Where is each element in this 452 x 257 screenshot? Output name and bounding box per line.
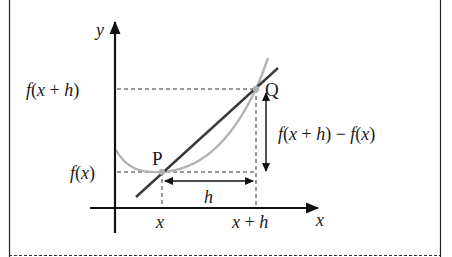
x-axis-label: x [315, 210, 324, 230]
point-p-marker [159, 169, 165, 175]
frame [9, 0, 441, 257]
function-curve [116, 58, 268, 172]
point-p-label: P [152, 148, 163, 169]
secant-diagram: y x f(x + h) f(x) x x + h h f(x + h) − f… [0, 0, 452, 257]
fx-tick-label: f(x) [70, 163, 95, 184]
point-q-label: Q [265, 79, 279, 100]
x-plus-h-tick-label: x + h [231, 212, 268, 232]
h-label: h [204, 187, 213, 207]
fxh-tick-label: f(x + h) [26, 80, 79, 101]
y-axis-label: y [94, 20, 104, 40]
difference-label: f(x + h) − f(x) [278, 124, 375, 145]
x-tick-label: x [155, 212, 164, 232]
point-q-marker [253, 86, 259, 92]
